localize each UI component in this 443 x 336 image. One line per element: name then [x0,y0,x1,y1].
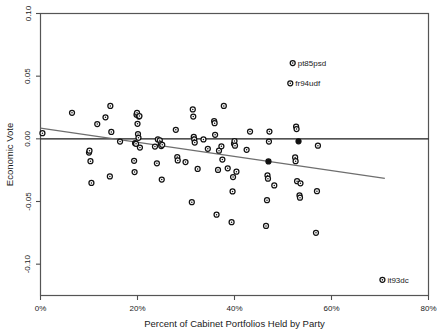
data-point-center [222,159,224,161]
data-point [107,174,112,179]
x-tick-label-1: 20% [129,304,145,313]
data-point-center [266,199,268,201]
annotated-point-center-fr94udf [289,83,291,85]
plot-canvas: 0%20%40%60%80%0.100.050.00-0.05-0.10Perc… [0,0,443,336]
data-point-center [137,133,139,135]
data-point-center [137,123,139,125]
data-point [205,146,210,151]
data-point [183,160,188,165]
data-point [118,139,123,144]
data-point [212,121,217,126]
annotated-point-center-pt85psd [292,62,294,64]
data-point-center [135,143,137,145]
data-point-center [136,112,138,114]
data-point [132,158,137,163]
data-point [225,166,230,171]
data-point-center [315,232,317,234]
y-tick-label-2: 0.00 [24,131,33,147]
data-point [154,161,159,166]
data-point [108,103,113,108]
data-point [293,159,298,164]
data-point-center [232,191,234,193]
data-point-center [192,109,194,111]
data-point [40,131,45,136]
data-point-center [161,144,163,146]
data-point [264,198,269,203]
data-point-center [91,182,93,184]
data-point-center [227,168,229,170]
data-point-center [317,145,319,147]
data-point [313,230,318,235]
data-point-center [191,201,193,203]
data-point [314,189,319,194]
data-point-center [300,183,302,185]
data-point-center [42,132,44,134]
data-point [234,169,239,174]
data-point [294,127,299,132]
data-point-center [296,180,298,182]
data-point [109,129,114,134]
data-point [230,189,235,194]
data-point-center [268,141,270,143]
data-point [159,177,164,182]
data-point-center [218,150,220,152]
data-point-center [269,131,271,133]
data-point [232,143,237,148]
data-point-center [249,131,251,133]
annotated-point-center-it93dc [382,279,384,281]
data-point [135,121,140,126]
data-point-center [175,129,177,131]
data-point-center [294,157,296,159]
data-point [191,114,196,119]
data-point-center [246,149,248,151]
data-point [244,147,249,152]
data-point [190,107,195,112]
data-point [266,159,271,164]
y-tick-label-1: 0.05 [24,68,33,84]
data-point-center [71,112,73,114]
data-point [195,166,200,171]
point-label-it93dc: it93dc [387,276,408,285]
data-point-center [193,116,195,118]
data-point-center [267,178,269,180]
data-point-center [110,105,112,107]
data-point [214,212,219,217]
data-point-center [217,169,219,171]
data-point [231,175,236,180]
data-point-center [221,146,223,148]
data-point-center [133,160,135,162]
data-point [192,140,197,145]
data-point-marker [266,159,271,164]
data-point-center [159,140,161,142]
data-point [89,180,94,185]
data-point-center [134,171,136,173]
data-point [298,181,303,186]
data-point-center [299,197,301,199]
data-point [160,142,165,147]
data-point-center [214,134,216,136]
data-point-center [197,168,199,170]
data-point [201,137,206,142]
data-point [137,145,142,150]
data-point [272,183,277,188]
data-point-center [139,147,141,149]
x-axis-title: Percent of Cabinet Portfolios Held by Pa… [144,318,325,329]
data-point-center [90,160,92,162]
point-label-fr94udf: fr94udf [295,79,321,88]
data-point [137,114,142,119]
data-point-center [216,214,218,216]
data-point [88,159,93,164]
data-point-center [274,185,276,187]
data-point-center [109,176,111,178]
data-point [248,129,253,134]
data-point-center [185,161,187,163]
data-point [136,135,141,140]
data-point-center [265,225,267,227]
data-point-center [236,171,238,173]
data-point-center [119,141,121,143]
data-point-marker [296,139,301,144]
data-point-center [234,140,236,142]
data-point [267,129,272,134]
x-tick-label-3: 60% [323,304,339,313]
data-point-center [138,137,140,139]
